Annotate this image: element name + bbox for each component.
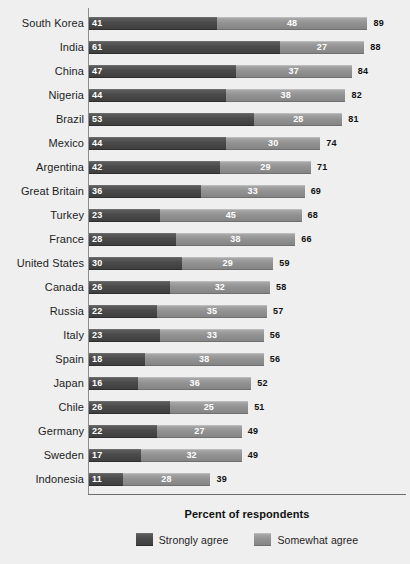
segment-value-somewhat-agree: 28 xyxy=(161,474,171,484)
segment-value-strongly-agree: 16 xyxy=(92,378,102,388)
bar-row: Great Britain363369 xyxy=(0,179,410,203)
category-label: Italy xyxy=(0,329,84,342)
bar-row: Canada263258 xyxy=(0,275,410,299)
bar-segment-somewhat-agree: 38 xyxy=(226,89,345,102)
bar-segment-strongly-agree: 53 xyxy=(88,113,254,126)
bar-row: France283866 xyxy=(0,227,410,251)
bar-row: Germany222749 xyxy=(0,419,410,443)
bar-row: Chile262551 xyxy=(0,395,410,419)
chart-legend: Strongly agreeSomewhat agree xyxy=(88,533,406,546)
bar-segment-strongly-agree: 17 xyxy=(88,449,141,462)
stacked-bar-chart: South Korea414889India612788China473784N… xyxy=(0,0,410,564)
segment-value-strongly-agree: 47 xyxy=(92,66,102,76)
segment-value-somewhat-agree: 45 xyxy=(226,210,236,220)
bar-segment-strongly-agree: 42 xyxy=(88,161,220,174)
segment-value-strongly-agree: 23 xyxy=(92,210,102,220)
x-axis-line xyxy=(88,494,406,495)
bar-total-value: 82 xyxy=(351,89,361,102)
segment-value-somewhat-agree: 29 xyxy=(260,162,270,172)
category-label: Argentina xyxy=(0,161,84,174)
bar-row: Italy233356 xyxy=(0,323,410,347)
bar-segment-somewhat-agree: 32 xyxy=(141,449,241,462)
bar-segment-somewhat-agree: 48 xyxy=(217,17,368,30)
bar-row: Mexico443074 xyxy=(0,131,410,155)
bar-row: Argentina422971 xyxy=(0,155,410,179)
legend-label: Strongly agree xyxy=(159,534,229,546)
category-label: Brazil xyxy=(0,113,84,126)
legend-item-somewhat[interactable]: Somewhat agree xyxy=(254,533,358,546)
category-label: France xyxy=(0,233,84,246)
bar-segment-somewhat-agree: 36 xyxy=(138,377,251,390)
bar-total-value: 56 xyxy=(270,353,280,366)
segment-value-strongly-agree: 18 xyxy=(92,354,102,364)
category-label: United States xyxy=(0,257,84,270)
legend-label: Somewhat agree xyxy=(277,534,358,546)
bar-total-value: 51 xyxy=(254,401,264,414)
category-label: Japan xyxy=(0,377,84,390)
stacked-bar: 1732 xyxy=(88,449,242,462)
stacked-bar: 2235 xyxy=(88,305,267,318)
legend-item-strong[interactable]: Strongly agree xyxy=(136,533,229,546)
bar-total-value: 66 xyxy=(301,233,311,246)
bar-total-value: 81 xyxy=(348,113,358,126)
segment-value-strongly-agree: 42 xyxy=(92,162,102,172)
segment-value-strongly-agree: 11 xyxy=(92,474,102,484)
bar-total-value: 49 xyxy=(248,449,258,462)
category-label: Great Britain xyxy=(0,185,84,198)
bar-segment-strongly-agree: 28 xyxy=(88,233,176,246)
segment-value-strongly-agree: 22 xyxy=(92,306,102,316)
bar-segment-strongly-agree: 18 xyxy=(88,353,145,366)
stacked-bar: 2632 xyxy=(88,281,270,294)
bar-row: Russia223557 xyxy=(0,299,410,323)
bar-segment-strongly-agree: 26 xyxy=(88,401,170,414)
plot-area: South Korea414889India612788China473784N… xyxy=(0,0,410,496)
stacked-bar: 4148 xyxy=(88,17,367,30)
bar-segment-somewhat-agree: 33 xyxy=(201,185,305,198)
category-label: India xyxy=(0,41,84,54)
bar-total-value: 39 xyxy=(216,473,226,486)
segment-value-strongly-agree: 44 xyxy=(92,90,102,100)
bar-segment-somewhat-agree: 29 xyxy=(220,161,311,174)
segment-value-somewhat-agree: 25 xyxy=(204,402,214,412)
bar-segment-strongly-agree: 22 xyxy=(88,425,157,438)
segment-value-somewhat-agree: 27 xyxy=(194,426,204,436)
bar-segment-somewhat-agree: 38 xyxy=(145,353,264,366)
bar-segment-somewhat-agree: 30 xyxy=(226,137,320,150)
segment-value-somewhat-agree: 33 xyxy=(207,330,217,340)
x-axis-title: Percent of respondents xyxy=(88,508,406,520)
segment-value-strongly-agree: 30 xyxy=(92,258,102,268)
bar-row: Turkey234568 xyxy=(0,203,410,227)
bar-segment-strongly-agree: 47 xyxy=(88,65,236,78)
bar-row: Sweden173249 xyxy=(0,443,410,467)
stacked-bar: 3633 xyxy=(88,185,305,198)
bar-segment-somewhat-agree: 28 xyxy=(254,113,342,126)
stacked-bar: 4229 xyxy=(88,161,311,174)
bar-segment-strongly-agree: 44 xyxy=(88,137,226,150)
bar-total-value: 84 xyxy=(358,65,368,78)
segment-value-somewhat-agree: 30 xyxy=(268,138,278,148)
bar-segment-somewhat-agree: 32 xyxy=(170,281,270,294)
segment-value-strongly-agree: 41 xyxy=(92,18,102,28)
segment-value-somewhat-agree: 33 xyxy=(248,186,258,196)
stacked-bar: 1838 xyxy=(88,353,264,366)
segment-value-somewhat-agree: 48 xyxy=(287,18,297,28)
segment-value-somewhat-agree: 32 xyxy=(215,282,225,292)
bar-row: Indonesia112839 xyxy=(0,467,410,491)
category-label: China xyxy=(0,65,84,78)
segment-value-strongly-agree: 53 xyxy=(92,114,102,124)
stacked-bar: 2227 xyxy=(88,425,242,438)
bar-row: United States302959 xyxy=(0,251,410,275)
category-label: Russia xyxy=(0,305,84,318)
bar-segment-somewhat-agree: 35 xyxy=(157,305,267,318)
segment-value-strongly-agree: 22 xyxy=(92,426,102,436)
bar-row: Spain183856 xyxy=(0,347,410,371)
bar-total-value: 88 xyxy=(370,41,380,54)
segment-value-strongly-agree: 17 xyxy=(92,450,102,460)
legend-swatch-icon xyxy=(136,533,153,546)
segment-value-strongly-agree: 44 xyxy=(92,138,102,148)
bar-total-value: 89 xyxy=(373,17,383,30)
bar-row: China473784 xyxy=(0,59,410,83)
segment-value-strongly-agree: 23 xyxy=(92,330,102,340)
bar-segment-strongly-agree: 44 xyxy=(88,89,226,102)
bar-row: Brazil532881 xyxy=(0,107,410,131)
